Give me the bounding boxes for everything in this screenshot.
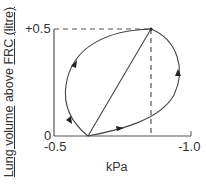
x-axis-label: kPa	[106, 160, 128, 174]
x-tick-min: -0.5	[44, 139, 66, 154]
y-label-unit: (litre)	[2, 7, 16, 35]
y-tick-max: +0.5	[25, 21, 51, 36]
arrow-right-icon	[116, 126, 124, 131]
x-tick-max: -1.0	[178, 139, 200, 154]
loop-right-curve	[88, 29, 179, 136]
loop-left-curve	[65, 29, 151, 136]
y-label-frc: FRC	[2, 39, 16, 65]
y-axis-label: Lung volume above FRC (litre)	[2, 2, 16, 182]
compliance-line	[88, 29, 151, 136]
y-label-lung-volume: Lung volume	[2, 106, 16, 178]
arrow-down-icon	[66, 116, 72, 124]
y-label-above: above	[2, 68, 16, 102]
peak-point	[149, 27, 152, 30]
